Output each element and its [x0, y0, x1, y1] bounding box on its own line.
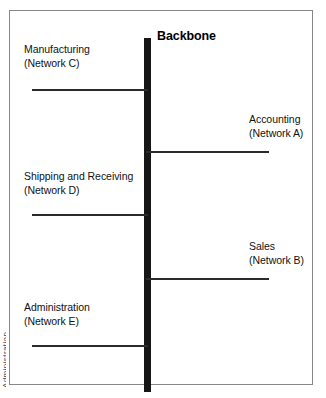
segment-network-accounting: (Network A) [249, 127, 303, 141]
branch-line-shipping-and-receiving [32, 214, 148, 216]
segment-name-accounting: Accounting [249, 113, 303, 127]
page-edge-artifact: Administration [1, 258, 6, 388]
segment-name-shipping-and-receiving: Shipping and Receiving [24, 170, 133, 184]
branch-line-accounting [146, 151, 269, 153]
diagram-frame: Backbone Manufacturing (Network C) Accou… [9, 10, 313, 385]
segment-name-manufacturing: Manufacturing [24, 43, 90, 57]
segment-label-administration: Administration (Network E) [24, 301, 90, 328]
segment-label-shipping-and-receiving: Shipping and Receiving (Network D) [24, 170, 133, 197]
backbone-network-diagram: Administration Backbone Manufacturing (N… [0, 0, 326, 398]
segment-network-shipping-and-receiving: (Network D) [24, 184, 133, 198]
segment-network-administration: (Network E) [24, 315, 90, 329]
page-edge-artifact-text: Administration [1, 258, 6, 388]
segment-network-manufacturing: (Network C) [24, 57, 90, 71]
backbone-title: Backbone [157, 29, 216, 43]
segment-network-sales: (Network B) [249, 254, 304, 268]
branch-line-administration [32, 345, 148, 347]
segment-name-administration: Administration [24, 301, 90, 315]
segment-label-sales: Sales (Network B) [249, 240, 304, 267]
segment-label-accounting: Accounting (Network A) [249, 113, 303, 140]
segment-label-manufacturing: Manufacturing (Network C) [24, 43, 90, 70]
branch-line-manufacturing [32, 89, 148, 91]
segment-name-sales: Sales [249, 240, 304, 254]
branch-line-sales [146, 278, 269, 280]
